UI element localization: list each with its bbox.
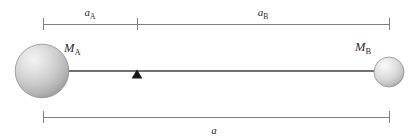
figure-canvas: aA aB MA MB a bbox=[0, 0, 416, 140]
label-a-sub-A: aA bbox=[85, 6, 97, 21]
label-M-sub-B-base: M bbox=[354, 40, 366, 54]
top-dimension-bar: aA aB bbox=[43, 6, 390, 30]
mass-b-group: MB bbox=[354, 40, 404, 87]
bottom-dimension-bar: a bbox=[43, 111, 390, 136]
mass-a-group: MA bbox=[15, 41, 81, 98]
label-a-total: a bbox=[211, 124, 217, 136]
label-M-sub-A-subscript: A bbox=[74, 47, 81, 57]
label-M-sub-A-base: M bbox=[63, 41, 75, 55]
mass-a-sphere bbox=[15, 44, 69, 98]
label-M-sub-B-subscript: B bbox=[365, 46, 371, 56]
mass-b-sphere bbox=[374, 57, 404, 87]
label-a-sub-B: aB bbox=[258, 6, 269, 21]
label-a-sub-A-subscript: A bbox=[90, 12, 96, 21]
label-M-sub-A: MA bbox=[63, 41, 81, 57]
label-a-total-base: a bbox=[211, 124, 217, 136]
label-a-sub-B-subscript: B bbox=[263, 12, 268, 21]
barycenter-diagram: aA aB MA MB a bbox=[0, 0, 416, 140]
label-M-sub-B: MB bbox=[354, 40, 371, 56]
